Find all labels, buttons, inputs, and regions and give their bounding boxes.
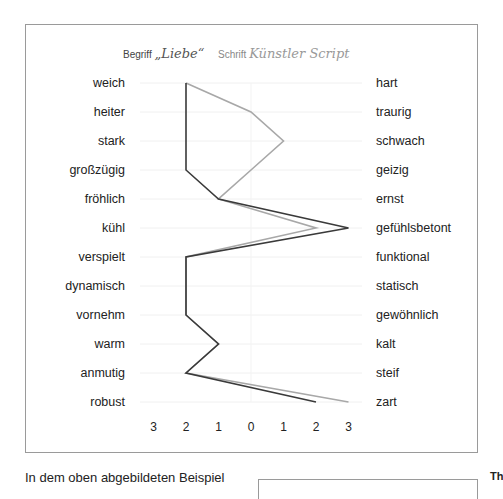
- series-lines: [186, 83, 349, 402]
- side-text-fragment: Th: [490, 470, 503, 482]
- secondary-frame: [258, 479, 478, 499]
- caption-text: In dem oben abgebildeten Beispiel: [25, 470, 224, 485]
- series-line: [186, 83, 349, 402]
